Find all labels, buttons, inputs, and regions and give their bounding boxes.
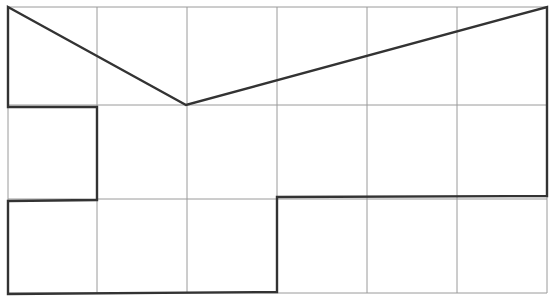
grid-diagram bbox=[0, 0, 551, 299]
